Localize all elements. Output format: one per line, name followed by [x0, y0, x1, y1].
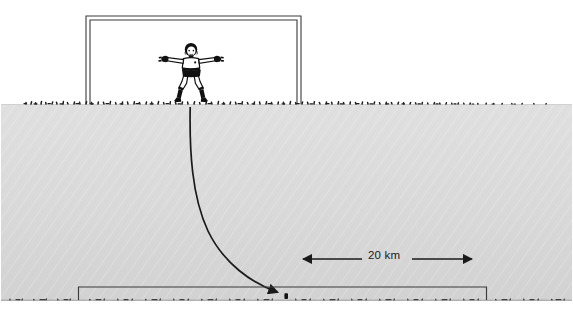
ball-marker: [284, 293, 288, 299]
figure-svg: [0, 0, 573, 310]
below-lower-ground: [0, 301, 573, 310]
distance-label: 20 km: [368, 249, 400, 261]
illustration-canvas: 20 km: [0, 0, 573, 310]
ground-region: [0, 105, 573, 302]
